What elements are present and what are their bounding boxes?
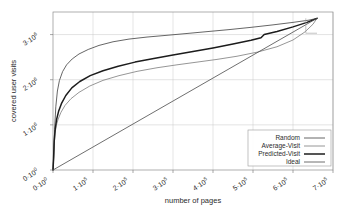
y-tick-label: 0·100: [21, 166, 40, 183]
legend-label-average-visit: Average-Visit: [262, 142, 301, 150]
x-tick-label: 6·105: [271, 175, 290, 192]
x-tick-label: 2·105: [111, 175, 130, 192]
y-tick-label: 1·106: [21, 120, 40, 137]
y-tick-label: 2·106: [21, 75, 40, 92]
x-tick-label: 4·105: [191, 175, 210, 192]
y-tick-label: 3·106: [21, 30, 40, 47]
legend-label-random: Random: [275, 134, 300, 141]
x-axis-title: number of pages: [165, 196, 222, 205]
legend-label-predicted-visit: Predicted-Visit: [258, 150, 300, 157]
x-axis: 0·1001·1052·1053·1054·1055·1056·1057·105: [31, 170, 333, 192]
legend-label-ideal: Ideal: [286, 158, 301, 165]
x-tick-label: 3·105: [151, 175, 170, 192]
x-tick-label: 7·105: [311, 175, 330, 192]
y-axis-title: covered user visits: [9, 60, 18, 122]
x-tick-label: 5·105: [231, 175, 250, 192]
legend: RandomAverage-VisitPredicted-VisitIdeal: [248, 130, 331, 166]
line-chart: 0·1001·1052·1053·1054·1055·1056·1057·105…: [0, 0, 353, 213]
y-axis: 0·1001·1062·1063·106: [21, 30, 53, 182]
chart-container: 0·1001·1052·1053·1054·1055·1056·1057·105…: [0, 0, 353, 213]
x-tick-label: 0·100: [31, 175, 50, 192]
x-tick-label: 1·105: [71, 175, 90, 192]
